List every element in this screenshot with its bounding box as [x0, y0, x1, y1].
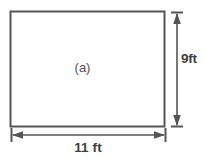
- height-arrowhead-up: [173, 13, 181, 24]
- height-arrowhead-down: [173, 115, 181, 126]
- width-arrowhead-right: [154, 131, 165, 139]
- shape-label: (a): [0, 61, 165, 74]
- height-dimension-group: [171, 13, 183, 127]
- geometry-figure: (a) 9ft 11 ft: [0, 0, 204, 160]
- width-arrowhead-left: [12, 131, 23, 139]
- figure-drawing: [0, 0, 204, 160]
- width-dimension-label: 11 ft: [10, 141, 166, 155]
- height-dimension-label: 9ft: [181, 52, 197, 66]
